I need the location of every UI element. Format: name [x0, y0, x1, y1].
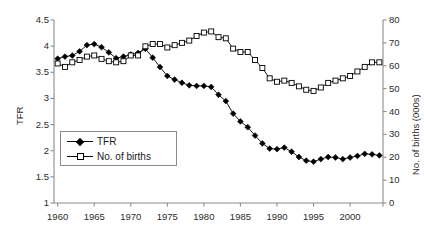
- data-point: [186, 82, 192, 88]
- open-square-marker-icon: [67, 152, 93, 162]
- data-point: [370, 60, 375, 65]
- data-point: [91, 41, 97, 47]
- legend-label-tfr: TFR: [97, 136, 116, 147]
- data-point: [347, 155, 353, 161]
- data-point: [245, 50, 250, 55]
- legend: TFR No. of births: [60, 131, 177, 166]
- data-point: [172, 43, 177, 48]
- data-point: [194, 83, 200, 89]
- data-point: [333, 155, 339, 161]
- data-point: [172, 77, 178, 83]
- data-point: [92, 53, 97, 58]
- data-point: [267, 76, 272, 81]
- data-point: [326, 80, 331, 85]
- data-point: [362, 64, 367, 69]
- data-point: [179, 80, 185, 86]
- series-births: [55, 29, 382, 93]
- data-point: [106, 59, 111, 64]
- data-point: [325, 154, 331, 160]
- data-point: [62, 64, 67, 69]
- data-point: [362, 151, 368, 157]
- data-point: [231, 46, 236, 51]
- data-point: [274, 79, 279, 84]
- data-point: [179, 40, 184, 45]
- data-point: [128, 53, 133, 58]
- filled-diamond-marker-icon: [67, 137, 93, 147]
- data-point: [121, 59, 126, 64]
- data-point: [333, 78, 338, 83]
- data-point: [274, 146, 280, 152]
- data-point: [289, 80, 294, 85]
- data-point: [216, 35, 221, 40]
- plot-area: [0, 0, 424, 243]
- legend-label-births: No. of births: [97, 151, 151, 162]
- data-point: [282, 78, 287, 83]
- data-point: [369, 151, 375, 157]
- data-point: [136, 53, 141, 58]
- data-point: [355, 153, 361, 159]
- data-point: [267, 146, 273, 152]
- data-point: [289, 149, 295, 155]
- data-point: [318, 156, 324, 162]
- data-point: [318, 85, 323, 90]
- data-point: [223, 36, 228, 41]
- data-point: [303, 158, 309, 164]
- data-point: [209, 29, 214, 34]
- legend-item-tfr: TFR: [67, 136, 116, 147]
- data-point: [296, 84, 301, 89]
- data-point: [158, 42, 163, 47]
- data-point: [99, 44, 105, 50]
- data-point: [348, 74, 353, 79]
- data-point: [377, 60, 382, 65]
- data-point: [62, 54, 68, 60]
- data-point: [253, 58, 258, 63]
- data-point: [355, 69, 360, 74]
- data-point: [70, 60, 75, 65]
- data-point: [311, 159, 317, 165]
- chart-container: TFR No. of births (000s) 11.522.533.544.…: [0, 0, 424, 243]
- legend-item-births: No. of births: [67, 151, 151, 162]
- data-point: [201, 83, 207, 89]
- data-point: [281, 145, 287, 151]
- data-point: [340, 156, 346, 162]
- data-point: [311, 88, 316, 93]
- data-point: [201, 30, 206, 35]
- data-point: [84, 54, 89, 59]
- data-point: [376, 153, 382, 159]
- data-point: [304, 87, 309, 92]
- data-point: [77, 58, 82, 63]
- data-point: [260, 66, 265, 71]
- data-point: [165, 45, 170, 50]
- data-point: [150, 42, 155, 47]
- data-point: [340, 76, 345, 81]
- data-point: [69, 53, 75, 59]
- data-point: [238, 50, 243, 55]
- data-point: [99, 56, 104, 61]
- data-point: [55, 61, 60, 66]
- data-point: [114, 60, 119, 65]
- data-point: [187, 38, 192, 43]
- data-point: [194, 34, 199, 39]
- data-point: [296, 154, 302, 160]
- data-point: [143, 44, 148, 49]
